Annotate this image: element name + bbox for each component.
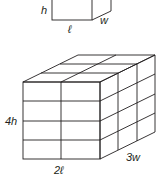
large-box-front-face bbox=[23, 82, 100, 159]
box-diagram: h ℓ w 4h 2ℓ 3w bbox=[0, 0, 166, 184]
large-box: 4h 2ℓ 3w bbox=[5, 55, 155, 176]
small-box-height-label: h bbox=[41, 4, 47, 16]
large-box-length-label: 2ℓ bbox=[53, 164, 64, 176]
small-box-width-label: w bbox=[100, 14, 109, 26]
small-box-length-label: ℓ bbox=[67, 23, 72, 35]
small-box: h ℓ w bbox=[41, 0, 111, 35]
large-box-width-label: 3w bbox=[126, 151, 141, 163]
small-box-front-face bbox=[52, 0, 92, 20]
large-box-height-label: 4h bbox=[5, 115, 17, 127]
